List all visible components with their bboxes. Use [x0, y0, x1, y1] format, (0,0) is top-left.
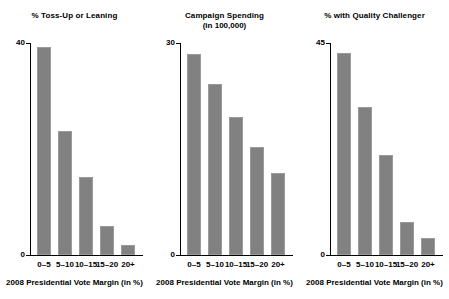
x-axis-tick-label: 20+	[263, 260, 293, 270]
y-axis-tick-label-min: 0	[321, 250, 325, 259]
x-axis-caption: 2008 Presidential Vote Margin (in %)	[0, 277, 149, 288]
panel-toss-up-or-leaning: % Toss-Up or Leaning 40 0 0–5 5–10 10–15…	[0, 0, 149, 299]
x-axis-tick-label: 20+	[113, 260, 143, 270]
panel-subtitle: (in 100,000)	[150, 21, 299, 31]
y-axis-tick-label-max: 40	[16, 38, 25, 47]
bar	[379, 155, 393, 255]
x-axis-tick-label: 20+	[413, 260, 443, 270]
bar-series	[180, 43, 292, 255]
bar	[208, 84, 222, 255]
bar	[187, 54, 201, 255]
x-axis-tick-labels: 0–5 5–10 10–15 15–20 20+	[30, 260, 143, 272]
x-axis-tick-labels: 0–5 5–10 10–15 15–20 20+	[180, 260, 293, 272]
x-axis-caption: 2008 Presidential Vote Margin (in %)	[300, 277, 449, 288]
y-axis-tick-label-max: 45	[316, 38, 325, 47]
y-axis-tick-label-max: 30	[166, 38, 175, 47]
bar	[58, 131, 72, 255]
bar	[337, 53, 351, 255]
three-panel-bar-figure: % Toss-Up or Leaning 40 0 0–5 5–10 10–15…	[0, 0, 449, 299]
bar	[121, 245, 135, 255]
bar	[37, 47, 51, 255]
bar-series	[330, 43, 442, 255]
panel-campaign-spending: Campaign Spending (in 100,000) 30 0 0–5 …	[150, 0, 299, 299]
panel-title: % Toss-Up or Leaning	[0, 11, 149, 21]
bar	[79, 177, 93, 255]
x-axis-line	[330, 255, 443, 256]
panel-title: % with Quality Challenger	[300, 11, 449, 21]
bar	[421, 238, 435, 255]
x-axis-tick-labels: 0–5 5–10 10–15 15–20 20+	[330, 260, 443, 272]
plot-area: 30 0 0–5 5–10 10–15 15–20 20+	[180, 43, 292, 255]
bar-series	[30, 43, 142, 255]
plot-area: 40 0 0–5 5–10 10–15 15–20 20+	[30, 43, 142, 255]
x-axis-line	[30, 255, 143, 256]
bar	[229, 117, 243, 255]
x-axis-caption: 2008 Presidential Vote Margin (in %)	[150, 277, 299, 288]
plot-area: 45 0 0–5 5–10 10–15 15–20 20+	[330, 43, 442, 255]
y-axis-tick-label-min: 0	[171, 250, 175, 259]
x-axis-line	[180, 255, 293, 256]
bar	[358, 107, 372, 255]
bar	[271, 173, 285, 255]
bar	[400, 222, 414, 255]
y-axis-tick-label-min: 0	[21, 250, 25, 259]
panel-quality-challenger: % with Quality Challenger 45 0 0–5 5–10 …	[300, 0, 449, 299]
bar	[100, 226, 114, 255]
panel-title: Campaign Spending	[150, 11, 299, 21]
bar	[250, 147, 264, 255]
